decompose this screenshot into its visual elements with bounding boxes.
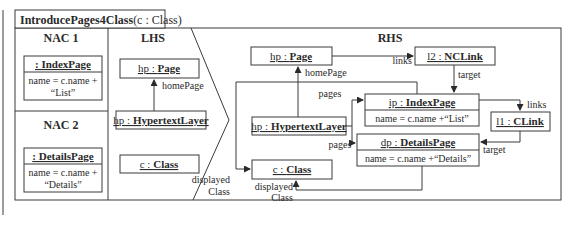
- rhs-label: RHS: [378, 31, 403, 45]
- svg-text:l2 : NCLink: l2 : NCLink: [427, 50, 484, 62]
- rhs-links-label-2: links: [527, 99, 547, 110]
- nac2-label: NAC 2: [44, 118, 79, 132]
- rhs-target-label-1: target: [458, 69, 481, 80]
- svg-text:name = c.name +: name = c.name +: [28, 167, 97, 178]
- nac1-label: NAC 1: [44, 31, 79, 45]
- svg-text:hp : HypertextLayer: hp : HypertextLayer: [113, 114, 208, 126]
- svg-text:name = c.name +“Details”: name = c.name +“Details”: [365, 153, 471, 164]
- rhs-displayedclass-label-1a: displayed: [192, 174, 230, 185]
- lhs-hypertextlayer-object: hp : HypertextLayer: [113, 111, 208, 129]
- svg-text:“Details”: “Details”: [44, 179, 81, 190]
- svg-text:name = c.name +: name = c.name +: [28, 75, 97, 86]
- rhs-displayedclass-label-2b: Class: [271, 192, 293, 203]
- svg-text:hp : HypertextLayer: hp : HypertextLayer: [251, 120, 346, 132]
- svg-text:c : Class: c : Class: [273, 163, 312, 175]
- rhs-homepage-label: homePage: [305, 67, 347, 78]
- lhs-class-object: c : Class: [120, 155, 199, 173]
- rhs-pages-label-2: pages: [329, 139, 352, 150]
- svg-text:name = c.name +“List”: name = c.name +“List”: [375, 113, 468, 124]
- nac2-detailspage-object: : DetailsPage name = c.name + “Details”: [24, 148, 102, 192]
- rhs-pages-edge-2: [352, 126, 355, 143]
- svg-text:: DetailsPage: : DetailsPage: [32, 150, 94, 162]
- rhs-target-edge-2: [481, 131, 520, 142]
- svg-text:hp : Page: hp : Page: [270, 50, 312, 62]
- rhs-indexpage-object: ip : IndexPage name = c.name +“List”: [365, 94, 479, 126]
- rhs-clink-object: l1 : CLink: [491, 112, 550, 131]
- rhs-hypertextlayer-object: hp : HypertextLayer: [251, 117, 346, 135]
- svg-text:“List”: “List”: [51, 87, 75, 98]
- rhs-displayedclass-label-1b: Class: [208, 186, 230, 197]
- rhs-displayedclass-label-2a: displayed: [255, 181, 293, 192]
- svg-text:l1 : CLink: l1 : CLink: [496, 115, 545, 127]
- rhs-page-object: hp : Page: [251, 47, 332, 65]
- svg-text:dp : DetailsPage: dp : DetailsPage: [381, 136, 456, 148]
- lhs-homepage-label: homePage: [162, 80, 204, 91]
- rhs-links-edge-2: [479, 100, 520, 110]
- rhs-pages-edge-1: [346, 100, 363, 126]
- svg-text:c : Class: c : Class: [140, 158, 179, 170]
- rhs-links-label-1: links: [393, 55, 413, 66]
- svg-text:ip : IndexPage: ip : IndexPage: [389, 96, 456, 108]
- nac1-indexpage-object: : IndexPage name = c.name + “List”: [24, 56, 102, 100]
- rhs-target-label-2: target: [483, 144, 506, 155]
- rhs-class-object: c : Class: [252, 160, 332, 179]
- svg-text:: IndexPage: : IndexPage: [35, 58, 91, 70]
- transformation-rule-diagram: IntroducePages4Class(c : Class) NAC 1 NA…: [0, 0, 569, 225]
- rule-title: IntroducePages4Class(c : Class): [20, 13, 182, 27]
- svg-text:hp : Page: hp : Page: [138, 62, 180, 74]
- rhs-nclink-object: l2 : NCLink: [415, 47, 495, 65]
- lhs-page-object: hp : Page: [120, 59, 199, 78]
- rhs-pages-label-1: pages: [319, 88, 342, 99]
- lhs-label: LHS: [141, 31, 165, 45]
- rhs-detailspage-object: dp : DetailsPage name = c.name +“Details…: [357, 134, 479, 166]
